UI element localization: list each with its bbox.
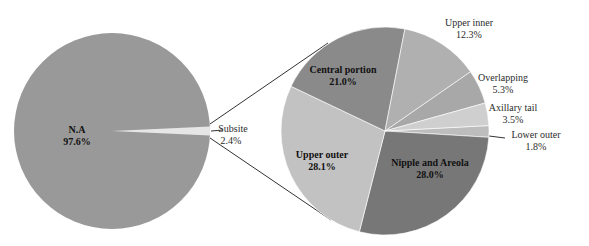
label-overlapping-pct: 5.3% — [493, 84, 514, 95]
label-nipple-pct: 28.0% — [416, 169, 444, 180]
label-subsite-pct: 2.4% — [221, 135, 242, 146]
label-central-pct: 21.0% — [329, 76, 357, 87]
label-upper-inner-pct: 12.3% — [456, 29, 482, 40]
main-pie — [14, 33, 210, 229]
label-na-name: N.A — [69, 124, 87, 135]
label-axillary-pct: 3.5% — [503, 114, 524, 125]
label-upper-outer-name: Upper outer — [296, 149, 349, 160]
pie-of-pie-chart: N.A 97.6% Subsite 2.4% Central portion 2… — [0, 0, 589, 246]
label-lower-outer-name: Lower outer — [511, 129, 561, 140]
label-lower-outer-pct: 1.8% — [526, 141, 547, 152]
label-upper-outer-pct: 28.1% — [308, 161, 336, 172]
subsite-breakdown-pie — [281, 27, 489, 235]
label-na-pct: 97.6% — [63, 136, 91, 147]
label-upper-inner-name: Upper inner — [445, 17, 494, 28]
label-nipple-name: Nipple and Areola — [391, 157, 469, 168]
label-central-name: Central portion — [310, 64, 377, 75]
label-overlapping-name: Overlapping — [478, 72, 528, 83]
label-subsite-name: Subsite — [218, 123, 248, 134]
label-axillary-name: Axillary tail — [489, 102, 538, 113]
